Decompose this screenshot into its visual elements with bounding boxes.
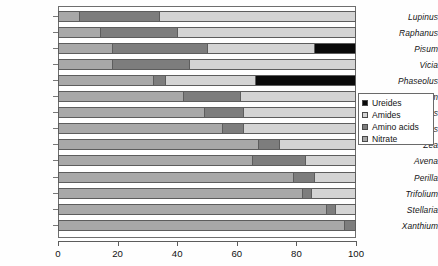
- x-axis-tick-label: 80: [276, 248, 316, 259]
- bar-helianthus: [58, 107, 356, 118]
- x-axis-tick: [296, 241, 297, 246]
- bar-segment-amino-acids: [302, 188, 311, 199]
- bar-segment-amino-acids: [183, 91, 240, 102]
- x-axis-tick-label: 40: [157, 248, 197, 259]
- bar-segment-nitrate: [58, 155, 252, 166]
- legend-swatch-icon: [362, 136, 368, 142]
- legend-box: UreidesAmidesAmino acidsNitrate: [358, 93, 434, 145]
- bar-segment-amino-acids: [112, 59, 189, 70]
- bar-segment-nitrate: [58, 43, 112, 54]
- y-axis-label-stellaria: Stellaria: [384, 205, 438, 215]
- y-axis-label-avena: Avena: [384, 156, 438, 166]
- bar-segment-amino-acids: [222, 123, 243, 134]
- bar-segment-nitrate: [58, 27, 100, 38]
- bar-segment-amides: [335, 204, 356, 215]
- bar-trifolium: [58, 188, 356, 199]
- legend-rows: UreidesAmidesAmino acidsNitrate: [362, 97, 433, 145]
- bar-segment-nitrate: [58, 220, 344, 231]
- bar-segment-nitrate: [58, 188, 302, 199]
- bar-segment-nitrate: [58, 139, 258, 150]
- y-axis-label-phaseolus: Phaseolus: [384, 76, 438, 86]
- bar-segment-amides: [314, 172, 356, 183]
- legend-item-ureides: Ureides: [362, 97, 433, 109]
- x-axis-tick-label: 20: [98, 248, 138, 259]
- y-axis-label-vicia: Vicia: [384, 60, 438, 70]
- bar-hordeum: [58, 91, 356, 102]
- x-axis-tick: [356, 241, 357, 246]
- bar-segment-amides: [311, 188, 356, 199]
- bar-segment-amino-acids: [79, 11, 159, 22]
- bar-segment-amides: [243, 123, 356, 134]
- bar-segment-ureides: [255, 75, 356, 86]
- y-axis-label-perilla: Perilla: [384, 173, 438, 183]
- y-axis-label-pisum: Pisum: [384, 44, 438, 54]
- x-axis-line: [58, 241, 356, 242]
- bar-segment-nitrate: [58, 75, 153, 86]
- bar-zea: [58, 139, 356, 150]
- bar-segment-amino-acids: [344, 220, 356, 231]
- x-axis-tick-label: 100: [336, 248, 376, 259]
- y-axis-label-trifolium: Trifolium: [384, 189, 438, 199]
- bar-stellaria: [58, 204, 356, 215]
- y-axis-label-lupinus: Lupinus: [384, 12, 438, 22]
- legend-item-nitrate: Nitrate: [362, 133, 433, 145]
- bar-segment-nitrate: [58, 123, 222, 134]
- bar-segment-nitrate: [58, 91, 183, 102]
- bar-lupinus: [58, 11, 356, 22]
- legend-label: Amides: [372, 109, 401, 121]
- legend-swatch-icon: [362, 124, 368, 130]
- bar-segment-amides: [159, 11, 356, 22]
- bar-segment-amides: [165, 75, 254, 86]
- bar-segment-amino-acids: [258, 139, 279, 150]
- bar-segment-amino-acids: [326, 204, 335, 215]
- bar-segment-amides: [305, 155, 356, 166]
- y-axis-label-xanthium: Xanthium: [384, 221, 438, 231]
- bar-vicia: [58, 59, 356, 70]
- bar-segment-amides: [189, 59, 356, 70]
- plot-background: [59, 7, 355, 237]
- bar-segment-nitrate: [58, 59, 112, 70]
- bar-xanthium: [58, 220, 356, 231]
- bar-perilla: [58, 172, 356, 183]
- bar-segment-ureides: [314, 43, 356, 54]
- bar-segment-nitrate: [58, 11, 79, 22]
- bar-segment-amino-acids: [293, 172, 314, 183]
- bar-segment-nitrate: [58, 107, 204, 118]
- legend-item-amino-acids: Amino acids: [362, 121, 433, 133]
- x-axis-tick: [118, 241, 119, 246]
- x-axis-tick-label: 60: [217, 248, 257, 259]
- bar-segment-amino-acids: [204, 107, 243, 118]
- bar-segment-amino-acids: [252, 155, 306, 166]
- bar-segment-nitrate: [58, 204, 326, 215]
- legend-swatch-icon: [362, 100, 368, 106]
- bar-segment-nitrate: [58, 172, 293, 183]
- legend-label: Ureides: [372, 97, 402, 109]
- bar-segment-amides: [243, 107, 356, 118]
- legend-label: Amino acids: [372, 121, 419, 133]
- bar-segment-amino-acids: [153, 75, 165, 86]
- legend-swatch-icon: [362, 112, 368, 118]
- legend-item-amides: Amides: [362, 109, 433, 121]
- x-axis-tick-label: 0: [38, 248, 78, 259]
- bar-impatiens: [58, 123, 356, 134]
- bar-segment-amino-acids: [100, 27, 177, 38]
- stacked-bar-chart: LupinusRaphanusPisumViciaPhaseolusHordeu…: [0, 0, 438, 266]
- bar-raphanus: [58, 27, 356, 38]
- bar-segment-amides: [279, 139, 356, 150]
- x-axis-tick: [237, 241, 238, 246]
- bar-segment-amides: [240, 91, 356, 102]
- bar-segment-amides: [177, 27, 356, 38]
- bar-segment-amino-acids: [112, 43, 207, 54]
- bar-segment-amides: [207, 43, 314, 54]
- y-axis-label-raphanus: Raphanus: [384, 28, 438, 38]
- bar-pisum: [58, 43, 356, 54]
- legend-label: Nitrate: [372, 133, 397, 145]
- bar-phaseolus: [58, 75, 356, 86]
- bar-avena: [58, 155, 356, 166]
- x-axis-tick: [177, 241, 178, 246]
- x-axis-tick: [58, 241, 59, 246]
